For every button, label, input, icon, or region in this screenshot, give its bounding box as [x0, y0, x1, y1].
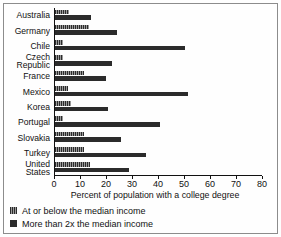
bar-more-than-2x-median	[55, 46, 185, 51]
bar-more-than-2x-median	[55, 92, 188, 97]
bar-at-or-below-median	[55, 116, 63, 121]
bar-at-or-below-median	[55, 101, 71, 106]
x-tick-label-20: 20	[95, 179, 117, 189]
y-axis-label-czech-republic: Czech Republic	[0, 53, 50, 70]
y-axis-label-portugal: Portugal	[0, 118, 50, 127]
bar-at-or-below-median	[55, 55, 63, 60]
bar-more-than-2x-median	[55, 137, 121, 142]
legend-swatch-at-or-below-median	[10, 207, 17, 214]
bar-at-or-below-median	[55, 25, 89, 30]
bar-more-than-2x-median	[55, 76, 106, 81]
x-tick-label-80: 80	[251, 179, 273, 189]
bar-more-than-2x-median	[55, 153, 146, 158]
plot-area	[54, 8, 262, 176]
y-axis-label-turkey: Turkey	[0, 149, 50, 158]
bar-more-than-2x-median	[55, 122, 160, 127]
bar-at-or-below-median	[55, 147, 84, 152]
legend-item-at-or-below-median: At or below the median income	[10, 204, 272, 217]
bar-group	[55, 8, 262, 23]
y-axis-label-slovakia: Slovakia	[0, 134, 50, 143]
bar-group	[55, 54, 262, 69]
chart-figure: AustraliaGermanyChileCzech RepublicFranc…	[0, 0, 281, 237]
bar-more-than-2x-median	[55, 30, 117, 35]
x-tick-label-50: 50	[173, 179, 195, 189]
bar-group	[55, 130, 262, 145]
x-tick-label-40: 40	[147, 179, 169, 189]
y-axis-label-united-states: United States	[0, 160, 50, 177]
chart-legend: At or below the median income More than …	[10, 204, 272, 230]
legend-label-more-than-2x-median: More than 2x the median income	[22, 219, 153, 229]
bar-group	[55, 23, 262, 38]
bar-more-than-2x-median	[55, 168, 129, 173]
bar-at-or-below-median	[55, 86, 68, 91]
legend-label-at-or-below-median: At or below the median income	[22, 206, 146, 216]
x-tick-label-0: 0	[43, 179, 65, 189]
bar-at-or-below-median	[55, 40, 63, 45]
x-tick-label-70: 70	[225, 179, 247, 189]
y-axis-label-korea: Korea	[0, 103, 50, 112]
legend-item-more-than-2x-median: More than 2x the median income	[10, 217, 272, 230]
bar-group	[55, 145, 262, 160]
bar-group	[55, 69, 262, 84]
y-axis-label-chile: Chile	[0, 42, 50, 51]
bar-group	[55, 39, 262, 54]
bar-group	[55, 84, 262, 99]
bar-group	[55, 161, 262, 176]
bar-group	[55, 115, 262, 130]
bar-at-or-below-median	[55, 71, 84, 76]
x-tick-label-60: 60	[199, 179, 221, 189]
bar-at-or-below-median	[55, 10, 69, 15]
y-axis-label-france: France	[0, 72, 50, 81]
x-tick-label-30: 30	[121, 179, 143, 189]
bar-more-than-2x-median	[55, 107, 108, 112]
x-tick-label-10: 10	[69, 179, 91, 189]
x-axis-label: Percent of population with a college deg…	[40, 190, 270, 200]
legend-swatch-more-than-2x-median	[10, 220, 17, 227]
bar-group	[55, 100, 262, 115]
bar-at-or-below-median	[55, 162, 90, 167]
y-axis-label-australia: Australia	[0, 11, 50, 20]
y-axis-category-labels: AustraliaGermanyChileCzech RepublicFranc…	[0, 8, 52, 176]
bar-at-or-below-median	[55, 132, 84, 137]
bar-more-than-2x-median	[55, 15, 91, 20]
y-axis-label-germany: Germany	[0, 27, 50, 36]
y-axis-label-mexico: Mexico	[0, 88, 50, 97]
bar-more-than-2x-median	[55, 61, 112, 66]
